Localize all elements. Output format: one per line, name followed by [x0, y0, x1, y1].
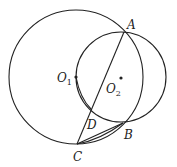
label-o1: O1 [57, 72, 72, 87]
label-d: D [87, 119, 97, 131]
label-o2: O2 [106, 83, 121, 98]
point-o2 [119, 76, 122, 79]
geometry-diagram: A O1 O2 D B C [0, 0, 177, 167]
label-a: A [127, 19, 136, 31]
diagram-canvas [0, 0, 177, 167]
arc-o1-d [76, 77, 91, 109]
label-b: B [124, 129, 133, 141]
label-c: C [73, 151, 82, 163]
point-o1 [74, 75, 77, 78]
